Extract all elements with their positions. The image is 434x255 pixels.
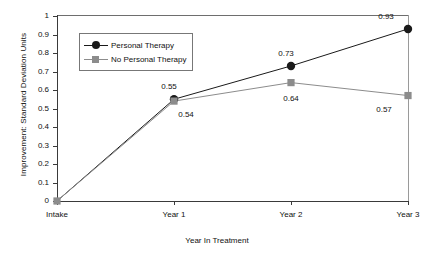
data-label: 0.93 (366, 12, 406, 21)
legend-item-no-personal-therapy: No Personal Therapy (84, 52, 186, 66)
marker-square (170, 98, 177, 105)
data-label: 0.55 (149, 82, 189, 91)
legend-marker-square-icon (84, 54, 108, 64)
legend-marker-circle-icon (84, 40, 108, 50)
x-axis-title: Year In Treatment (0, 236, 434, 245)
marker-square (53, 197, 60, 204)
line-chart: Improvement: Standard Deviation Units 00… (0, 0, 434, 255)
data-label: 0.64 (271, 94, 311, 103)
legend-label-no-personal-therapy: No Personal Therapy (111, 55, 186, 64)
legend-label-personal-therapy: Personal Therapy (111, 41, 174, 50)
series-line-2 (57, 83, 408, 201)
marker-circle (404, 25, 412, 33)
marker-circle (287, 62, 295, 70)
series-plot (0, 0, 434, 255)
legend: Personal Therapy No Personal Therapy (79, 33, 193, 71)
legend-item-personal-therapy: Personal Therapy (84, 38, 186, 52)
data-label: 0.54 (166, 110, 206, 119)
marker-square (287, 79, 294, 86)
data-label: 0.73 (266, 49, 306, 58)
marker-square (404, 92, 411, 99)
data-label: 0.57 (364, 105, 404, 114)
